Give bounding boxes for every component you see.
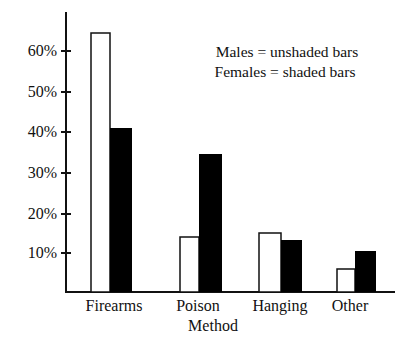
bar-hanging-males [259,233,281,292]
bar-other-males [337,269,355,292]
legend-males: Males = unshaded bars [216,43,359,60]
bar-firearms-females [110,128,132,292]
bar-hanging-females [281,240,302,292]
x-category-labels: Firearms Poison Hanging Other [86,297,369,315]
bar-firearms-males [91,33,110,292]
bar-poison-males [180,237,199,292]
category-poison: Poison [176,297,220,314]
bar-poison-females [199,154,222,292]
legend-females: Females = shaded bars [215,63,356,80]
y-tick-50: 50% [28,83,57,100]
category-other: Other [332,297,369,314]
y-tick-40: 40% [28,123,57,140]
legend: Males = unshaded bars Females = shaded b… [215,43,359,80]
y-tick-20: 20% [28,205,57,222]
bar-other-females [355,251,376,292]
y-tick-labels: 10% 20% 30% 40% 50% 60% [28,42,57,261]
x-axis-title: Method [188,317,238,334]
y-tick-60: 60% [28,42,57,59]
y-tick-30: 30% [28,164,57,181]
bar-chart: 10% 20% 30% 40% 50% 60% Firearms Poison … [0,0,414,348]
category-firearms: Firearms [86,297,143,314]
y-tick-10: 10% [28,244,57,261]
category-hanging: Hanging [252,297,307,315]
